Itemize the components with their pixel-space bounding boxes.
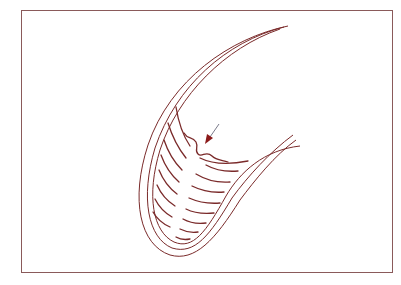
diagram-canvas [0,0,401,285]
outer-wall [139,26,296,256]
diagram-figure [0,0,401,285]
pointer-arrow-icon [205,124,219,144]
lamellae-right [176,158,248,240]
inner-wall [153,29,300,244]
wavy-notch [184,133,228,162]
lamellae-left [153,107,190,227]
